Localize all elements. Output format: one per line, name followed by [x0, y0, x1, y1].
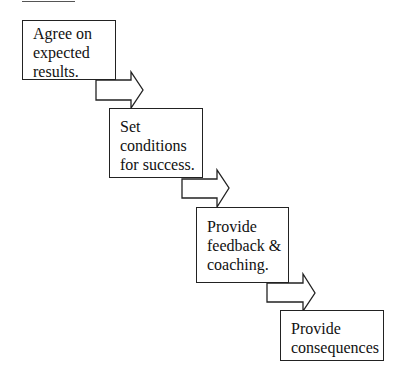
step-box-set-conditions-for-success: Set conditions for success. — [109, 108, 203, 178]
step-text-line: for success. — [120, 155, 194, 174]
step-text-line: Provide — [291, 319, 375, 338]
step-text-line: feedback & — [207, 236, 280, 255]
step-text-line: coaching. — [207, 255, 280, 274]
step-text-line: expected — [33, 43, 107, 62]
step-box-provide-feedback-coaching: Provide feedback & coaching. — [196, 207, 289, 283]
step-text-line: consequences — [291, 338, 375, 357]
step-text-line: Provide — [207, 217, 280, 236]
step-text-line: Set — [120, 117, 194, 136]
step-box-agree-on-expected-results: Agree on expected results. — [22, 20, 116, 80]
step-text-line: conditions — [120, 136, 194, 155]
step-text-line: results. — [33, 62, 107, 81]
step-box-provide-consequences: Provide consequences — [280, 310, 384, 361]
step-text-line: Agree on — [33, 24, 107, 43]
